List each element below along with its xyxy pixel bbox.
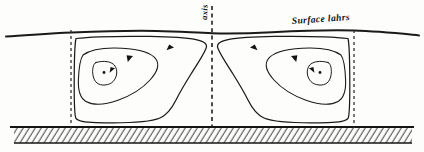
left-convection-cell — [74, 36, 206, 122]
right-arrow-outer — [250, 44, 258, 50]
axis-label: axis — [199, 4, 210, 20]
convection-cell-diagram: Surface lahrs axis — [0, 0, 424, 152]
surface-label: Surface lahrs — [291, 12, 350, 26]
left-arrow-middle — [127, 55, 133, 62]
right-convection-cell — [217, 36, 349, 122]
left-cell-center-dot — [103, 71, 106, 74]
figure-root: Surface lahrs axis — [0, 0, 424, 152]
right-streamline-middle — [266, 48, 345, 104]
right-arrow-middle — [291, 55, 297, 62]
left-arrow-core — [110, 67, 115, 73]
left-arrow-outer — [167, 44, 175, 50]
right-arrow-core — [309, 67, 314, 73]
ground-hatch-fill — [14, 128, 412, 144]
hatched-ground-boundary — [10, 127, 414, 143]
left-streamline-middle — [78, 48, 157, 104]
right-cell-center-dot — [319, 71, 322, 74]
